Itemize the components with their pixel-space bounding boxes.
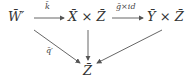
arrow-w-to-z — [34, 30, 80, 63]
node-y-times-z: Ȳ × Z̄ — [147, 10, 184, 23]
node-x-times-z: X̄ × Z̄ — [68, 10, 105, 23]
label-g-times-id: ḡ×id — [116, 3, 136, 11]
label-q-bar-prime: q̄′ — [46, 47, 53, 55]
node-w-prime: W̄′ — [8, 10, 24, 23]
label-k-bar: k̄ — [45, 3, 50, 11]
arrow-yz-to-z — [97, 30, 162, 63]
node-z: Z̄ — [83, 64, 92, 77]
